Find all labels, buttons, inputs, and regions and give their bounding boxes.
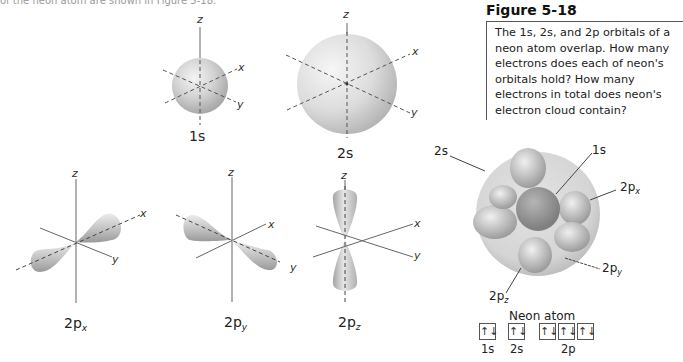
- orbital-box-2p-3: ↑↓: [577, 323, 594, 340]
- orbital-label-2py: 2py: [224, 314, 247, 332]
- orbital-box-2p-2: ↑↓: [558, 323, 575, 340]
- axis-label-x: x: [412, 45, 419, 58]
- callout-2s: 2s: [434, 144, 448, 158]
- axis-label-x: x: [268, 218, 275, 231]
- axis-label-x: x: [414, 217, 421, 230]
- orbital-label-1s: 1s: [189, 128, 205, 144]
- axis-label-y: y: [411, 106, 418, 119]
- axis-label-y: y: [290, 261, 297, 274]
- box-label-2p: 2p: [561, 342, 576, 356]
- axis-label-z: z: [341, 169, 347, 182]
- orbital-1s: [163, 27, 237, 125]
- axis-label-y: y: [237, 98, 244, 111]
- orbital-2px: [16, 179, 140, 303]
- orbital-box-2s: ↑↓: [508, 323, 525, 340]
- orbital-label-2s: 2s: [337, 145, 353, 161]
- callout-1s: 1s: [592, 143, 606, 157]
- axis-label-y: y: [414, 249, 421, 262]
- axis-label-z: z: [72, 167, 78, 180]
- orbital-box-2p-1: ↑↓: [539, 323, 556, 340]
- box-label-2s: 2s: [510, 342, 523, 356]
- axis-label-x: x: [238, 61, 245, 74]
- orbital-2pz: [313, 180, 413, 302]
- axis-label-z: z: [197, 13, 203, 26]
- callout-2pz: 2pz: [489, 289, 508, 305]
- callout-2px: 2px: [620, 180, 640, 196]
- orbital-2s: [286, 23, 410, 138]
- orbital-box-1s: ↑↓: [479, 323, 496, 340]
- axis-label-y: y: [112, 253, 119, 266]
- neon-atom-diagram: [450, 148, 616, 293]
- orbital-label-2pz: 2pz: [338, 314, 361, 332]
- box-label-1s: 1s: [481, 342, 494, 356]
- axis-label-x: x: [140, 207, 147, 220]
- axis-label-z: z: [228, 166, 234, 179]
- axis-label-z: z: [343, 8, 349, 21]
- orbital-label-2px: 2px: [64, 315, 87, 333]
- callout-2py: 2py: [602, 261, 622, 277]
- config-title: Neon atom: [509, 309, 575, 323]
- orbital-2py: [176, 177, 280, 302]
